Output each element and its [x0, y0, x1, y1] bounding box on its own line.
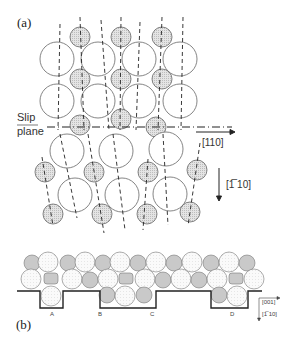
plane-label: plane — [17, 126, 44, 137]
step-label-a: A — [50, 311, 54, 317]
slip-label: Slip — [17, 112, 35, 123]
step-label-d: D — [230, 311, 234, 317]
panel-b-label: (b) — [16, 318, 31, 331]
direction-label-110: [110] — [202, 138, 224, 148]
step-label-c: C — [150, 311, 154, 317]
axis-label-bar110: [1̅ 10] — [262, 311, 277, 317]
step-label-b: B — [98, 311, 102, 317]
panel-b-structure — [21, 252, 264, 306]
panel-a-label: (a) — [17, 16, 31, 29]
panel-a-lower-crystal — [35, 132, 207, 224]
direction-label-bar110: [1̅ 10] — [226, 180, 251, 190]
direction-arrow-vertical — [217, 168, 222, 201]
axis-label-001: [001] — [262, 299, 275, 305]
panel-a-upper-crystal — [40, 27, 197, 137]
atomic-structure-diagram — [0, 0, 288, 338]
